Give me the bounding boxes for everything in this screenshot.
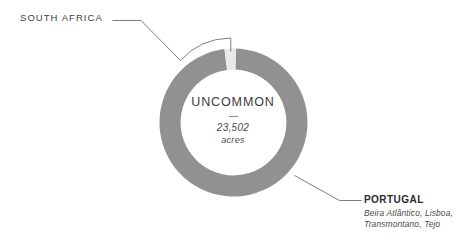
center-value: 23,502 bbox=[168, 123, 298, 133]
callout-portugal-regions-line1: Beira Atlântico, Lisboa, bbox=[364, 208, 453, 219]
callout-portugal-label: PORTUGAL bbox=[364, 194, 453, 205]
center-unit: acres bbox=[168, 136, 298, 145]
callout-portugal[interactable]: PORTUGAL Beira Atlântico, Lisboa, Transm… bbox=[364, 194, 453, 230]
callout-portugal-regions: Beira Atlântico, Lisboa, Transmontano, T… bbox=[364, 208, 453, 230]
callout-south-africa[interactable]: SOUTH AFRICA bbox=[20, 12, 103, 23]
callout-portugal-regions-line2: Transmontano, Tejo bbox=[364, 219, 453, 230]
callout-south-africa-label: SOUTH AFRICA bbox=[20, 12, 103, 23]
center-title: UNCOMMON bbox=[168, 96, 298, 109]
donut-center-label: UNCOMMON 23,502 acres bbox=[168, 96, 298, 145]
center-divider-rule bbox=[229, 116, 238, 117]
leader-line-portugal bbox=[295, 176, 362, 201]
uncommon-acres-donut-infographic: UNCOMMON 23,502 acres SOUTH AFRICA PORTU… bbox=[0, 0, 476, 243]
